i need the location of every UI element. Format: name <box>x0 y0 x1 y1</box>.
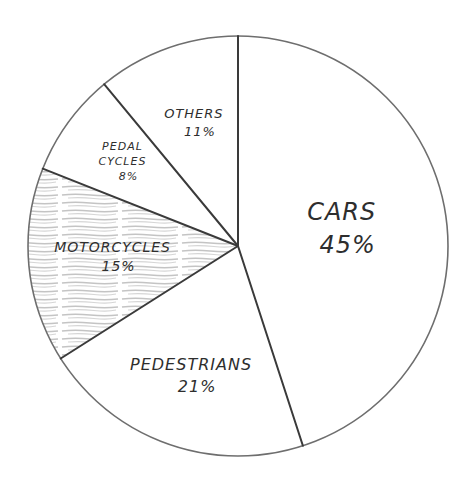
slice-category-label: CARS <box>307 198 376 226</box>
slice-category-label: PEDAL <box>102 140 143 153</box>
slice-percent-label: 45% <box>320 231 376 259</box>
slice-category-label: PEDESTRIANS <box>130 355 252 374</box>
slice-percent-label: 21% <box>178 377 217 396</box>
slice-percent-label: 11% <box>184 124 216 139</box>
slice-percent-label: 8% <box>119 170 138 183</box>
pie-chart: CARS45%PEDESTRIANS21%MOTORCYCLES15%PEDAL… <box>0 0 470 490</box>
slice-category-label: OTHERS <box>164 106 223 121</box>
slice-percent-label: 15% <box>101 258 135 274</box>
pie-chart-canvas: CARS45%PEDESTRIANS21%MOTORCYCLES15%PEDAL… <box>0 0 470 490</box>
slice-category-label: CYCLES <box>98 155 146 168</box>
slice-category-label: MOTORCYCLES <box>54 239 171 255</box>
